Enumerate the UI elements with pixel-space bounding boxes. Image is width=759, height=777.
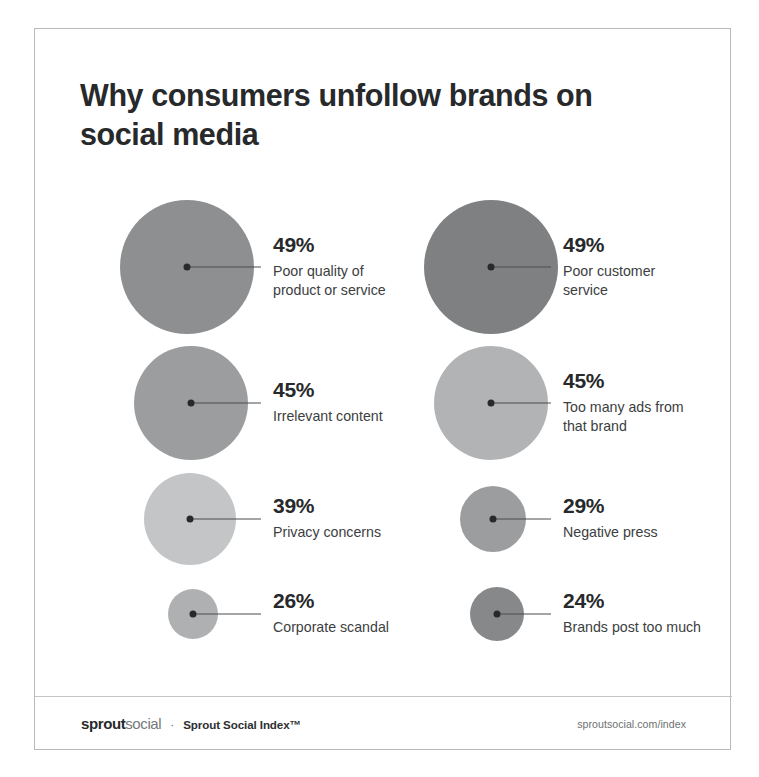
bubble-chart: 49%Poor quality ofproduct or service49%P…	[35, 29, 732, 689]
footer: sproutsocial · Sprout Social Index™ spro…	[35, 697, 732, 750]
bubble-value: 45%	[273, 379, 458, 400]
sprout-social-logo-bold: sprout	[81, 715, 125, 732]
footer-branding: sproutsocial · Sprout Social Index™	[81, 715, 301, 732]
bubble-label: 29%Negative press	[563, 495, 748, 542]
bubble-description: Irrelevant content	[273, 407, 458, 426]
leader-line	[191, 403, 261, 404]
footer-url[interactable]: sproutsocial.com/index	[577, 718, 686, 730]
bubble-label: 49%Poor customerservice	[563, 234, 748, 300]
bubble-description: Poor customerservice	[563, 262, 748, 300]
footer-tagline: Sprout Social Index™	[183, 718, 301, 731]
sprout-social-logo-light: social	[125, 715, 161, 732]
leader-line	[493, 519, 551, 520]
bubble-center-dot	[188, 400, 195, 407]
footer-separator: ·	[170, 718, 174, 732]
bubble-description: Corporate scandal	[273, 618, 458, 637]
bubble-center-dot	[490, 516, 497, 523]
bubble-value: 45%	[563, 370, 748, 391]
bubble-label: 45%Too many ads fromthat brand	[563, 370, 748, 436]
bubble-description: Too many ads fromthat brand	[563, 398, 748, 436]
bubble-center-dot	[488, 264, 495, 271]
bubble-description: Brands post too much	[563, 618, 748, 637]
infographic-frame: Why consumers unfollow brands on social …	[34, 28, 731, 750]
leader-line	[491, 403, 551, 404]
bubble-center-dot	[184, 264, 191, 271]
bubble-value: 26%	[273, 590, 458, 611]
bubble-value: 24%	[563, 590, 748, 611]
bubble-label: 45%Irrelevant content	[273, 379, 458, 426]
bubble-center-dot	[190, 611, 197, 618]
bubble-label: 39%Privacy concerns	[273, 495, 458, 542]
leader-line	[491, 267, 551, 268]
bubble-value: 49%	[273, 234, 458, 255]
bubble-label: 24%Brands post too much	[563, 590, 748, 637]
bubble-label: 49%Poor quality ofproduct or service	[273, 234, 458, 300]
bubble-value: 49%	[563, 234, 748, 255]
leader-line	[187, 267, 261, 268]
bubble-description: Negative press	[563, 523, 748, 542]
bubble-description: Poor quality ofproduct or service	[273, 262, 458, 300]
leader-line	[497, 614, 551, 615]
bubble-center-dot	[488, 400, 495, 407]
bubble-center-dot	[494, 611, 501, 618]
bubble-value: 39%	[273, 495, 458, 516]
bubble-center-dot	[187, 516, 194, 523]
leader-line	[193, 614, 261, 615]
bubble-value: 29%	[563, 495, 748, 516]
bubble-description: Privacy concerns	[273, 523, 458, 542]
leader-line	[190, 519, 261, 520]
bubble-label: 26%Corporate scandal	[273, 590, 458, 637]
